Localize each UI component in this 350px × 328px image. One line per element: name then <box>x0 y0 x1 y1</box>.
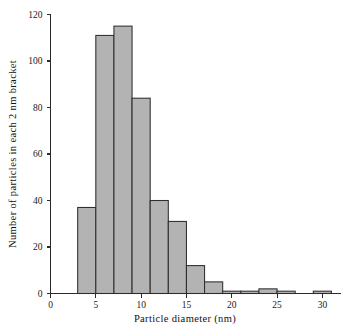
histogram-bar <box>114 26 132 293</box>
y-tick-label: 100 <box>28 56 43 66</box>
y-tick-label: 80 <box>33 103 43 113</box>
y-axis-ticks: 020406080100120 <box>28 10 50 299</box>
x-tick-label: 30 <box>318 300 328 310</box>
y-tick-label: 20 <box>33 242 43 252</box>
y-axis-title: Number of particles in each 2 nm bracket <box>7 60 18 248</box>
y-tick-label: 0 <box>38 289 43 299</box>
histogram-bar <box>259 289 277 294</box>
histogram-bar <box>168 221 186 293</box>
histogram-bar <box>78 207 96 293</box>
x-axis-title: Particle diameter (nm) <box>134 313 236 325</box>
y-tick-label: 120 <box>28 10 43 20</box>
x-axis-ticks: 051015202530 <box>48 294 327 310</box>
histogram-bar <box>150 201 168 294</box>
x-tick-label: 10 <box>136 300 146 310</box>
x-tick-label: 25 <box>272 300 282 310</box>
histogram-bar <box>205 282 223 294</box>
x-tick-label: 20 <box>227 300 237 310</box>
y-tick-label: 60 <box>33 149 43 159</box>
bars-group <box>78 26 332 293</box>
histogram-bar <box>96 35 114 293</box>
y-tick-label: 40 <box>33 196 43 206</box>
particle-diameter-histogram: 051015202530 020406080100120 Particle di… <box>0 0 350 328</box>
histogram-bar <box>186 266 204 294</box>
x-tick-label: 0 <box>48 300 53 310</box>
histogram-bar <box>132 98 150 293</box>
x-tick-label: 5 <box>93 300 98 310</box>
x-tick-label: 15 <box>182 300 192 310</box>
histogram-figure: 051015202530 020406080100120 Particle di… <box>0 0 350 328</box>
